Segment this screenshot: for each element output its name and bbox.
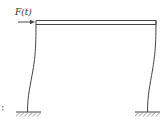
force-arrow [18,20,35,24]
portal-frame-diagram: F(t) [0,0,166,119]
frame-drawing [0,0,166,119]
right-fixed-support [135,112,160,117]
scan-artifact [2,106,4,111]
left-column [28,21,37,113]
left-fixed-support [16,112,41,117]
force-label: F(t) [15,8,32,17]
right-column [148,21,157,113]
beam [36,21,156,25]
arrowhead-icon [30,20,35,24]
